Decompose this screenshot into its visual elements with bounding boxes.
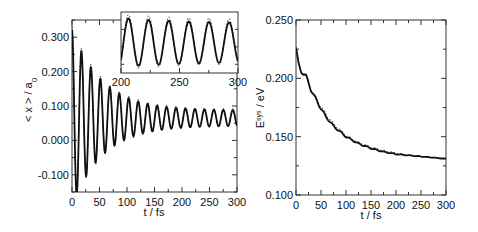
x-tick-label: 300 [437, 199, 455, 211]
inset-x-tick-label: 250 [170, 76, 188, 88]
left-y-tick-labels: -0.1000.0000.1000.2000.300 [38, 31, 69, 181]
left-y-axis-label: < x > / a0 [22, 77, 39, 122]
x-tick-label: 200 [173, 196, 191, 208]
x-tick-label: 0 [69, 196, 75, 208]
inset-x-tick-label: 300 [229, 76, 247, 88]
right-y-tick-labels: 0.1000.1500.2000.250 [265, 14, 293, 201]
x-tick-label: 250 [412, 199, 430, 211]
y-tick-label: -0.100 [38, 169, 69, 181]
right-y-axis-label: Esys / eV [254, 87, 266, 128]
right-panel: 0.1000.1500.2000.250 050100150200250300 … [254, 14, 455, 221]
right-plot-frame [296, 20, 446, 195]
x-tick-label: 300 [228, 196, 246, 208]
y-tick-label: 0.000 [41, 134, 69, 146]
y-tick-label: 0.100 [41, 100, 69, 112]
right-x-axis-label: t / fs [361, 209, 382, 221]
left-x-axis-label: t / fs [144, 206, 165, 218]
y-tick-label: 0.250 [265, 14, 293, 26]
inset-x-tick-label: 200 [112, 76, 130, 88]
inset-x-tick-labels: 200250300 [112, 76, 247, 88]
y-tick-label: 0.100 [265, 189, 293, 201]
y-tick-label: 0.200 [41, 66, 69, 78]
x-tick-label: 100 [337, 199, 355, 211]
x-tick-label: 200 [387, 199, 405, 211]
x-tick-label: 50 [315, 199, 327, 211]
inset-panel: 200250300 [112, 12, 247, 88]
figure: -0.1000.0000.1000.2000.300 0501001502002… [0, 0, 478, 232]
y-tick-label: 0.150 [265, 131, 293, 143]
left-panel: -0.1000.0000.1000.2000.300 0501001502002… [22, 12, 247, 218]
y-tick-label: 0.300 [41, 31, 69, 43]
right-axis-ticks [296, 20, 446, 195]
x-tick-label: 100 [118, 196, 136, 208]
x-tick-label: 50 [93, 196, 105, 208]
y-tick-label: 0.200 [265, 72, 293, 84]
x-tick-label: 0 [293, 199, 299, 211]
x-tick-label: 250 [200, 196, 218, 208]
right-series-solid [296, 48, 446, 159]
